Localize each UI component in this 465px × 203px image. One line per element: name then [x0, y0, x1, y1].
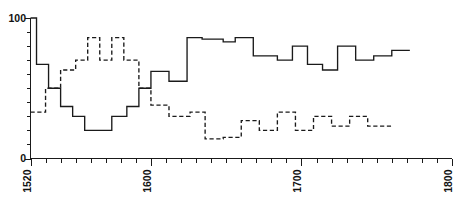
- series-solid-line: [31, 18, 410, 130]
- chart-canvas: 100 0 1520160017001800: [0, 0, 465, 203]
- x-axis-ticks: [32, 159, 453, 166]
- x-axis-labels: 1520160017001800: [21, 169, 455, 193]
- step-chart: 100 0 1520160017001800: [0, 0, 465, 203]
- x-axis-tick-label: 1600: [141, 169, 153, 193]
- y-axis-min-label: 0: [20, 152, 26, 164]
- x-axis-tick-label: 1520: [21, 169, 33, 193]
- y-axis-ticks: [25, 19, 31, 160]
- x-axis-tick-label: 1700: [291, 169, 303, 193]
- x-axis-tick-label: 1800: [442, 169, 454, 193]
- y-axis-max-label: 100: [8, 12, 26, 24]
